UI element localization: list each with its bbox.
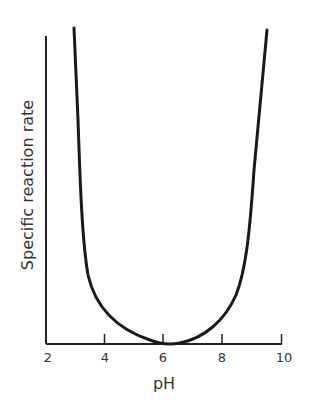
x-axis-title: pH [153, 374, 175, 393]
x-tick-label-6: 6 [159, 350, 167, 365]
x-tick-label-2: 2 [44, 350, 52, 365]
rate-curve [74, 28, 267, 344]
x-tick-label-4: 4 [101, 350, 109, 365]
y-axis-title: Specific reaction rate [18, 100, 37, 270]
chart: 2 4 6 8 10 pH Specific reaction rate [0, 0, 310, 404]
x-tick-label-10: 10 [276, 350, 293, 365]
x-tick-label-8: 8 [218, 350, 226, 365]
